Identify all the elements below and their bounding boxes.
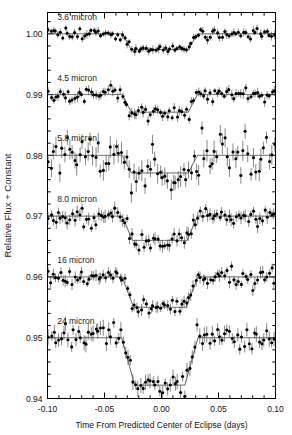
data-point	[71, 212, 74, 215]
data-point	[55, 221, 58, 224]
data-point	[57, 338, 60, 341]
data-point	[164, 46, 167, 49]
data-point	[151, 304, 154, 307]
data-point	[255, 333, 258, 336]
data-point	[129, 359, 132, 362]
data-point	[137, 109, 140, 112]
data-point	[50, 213, 53, 216]
data-point	[237, 214, 240, 217]
data-point	[204, 36, 207, 39]
y-tick-label-2: 0.96	[26, 272, 43, 282]
data-point	[248, 342, 251, 345]
data-point	[265, 329, 268, 332]
data-point	[228, 166, 231, 169]
data-point	[57, 211, 60, 214]
data-point	[131, 232, 134, 235]
data-point	[208, 213, 211, 216]
data-point	[190, 232, 193, 235]
data-point	[144, 184, 147, 187]
data-point	[260, 342, 263, 345]
data-point	[213, 28, 216, 31]
data-point	[187, 233, 190, 236]
data-point	[147, 311, 150, 314]
data-point	[211, 162, 214, 165]
data-point	[137, 310, 140, 313]
data-point	[87, 150, 90, 153]
data-point	[145, 302, 148, 305]
data-point	[130, 48, 133, 51]
data-point	[253, 282, 256, 285]
data-point	[220, 92, 223, 95]
data-point	[102, 326, 105, 329]
data-point	[104, 215, 107, 218]
data-point	[237, 31, 240, 34]
data-point	[252, 156, 255, 159]
data-point	[74, 219, 77, 222]
data-point	[68, 218, 71, 221]
data-point	[188, 118, 191, 121]
data-point	[116, 211, 119, 214]
data-point	[123, 277, 126, 280]
data-point	[75, 163, 78, 166]
data-point	[240, 283, 243, 286]
data-point	[120, 151, 123, 154]
data-point	[262, 338, 265, 341]
data-point	[158, 45, 161, 48]
data-point	[99, 34, 102, 37]
plot-canvas: -0.10-0.050.000.050.100.940.950.960.970.…	[0, 0, 292, 435]
data-point	[72, 328, 75, 331]
data-point	[46, 217, 49, 220]
data-point	[124, 36, 127, 39]
data-point	[226, 155, 229, 158]
y-axis-title: Relative Flux + Constant	[2, 153, 13, 257]
data-point	[134, 113, 137, 116]
data-point	[121, 219, 124, 222]
data-point	[185, 108, 188, 111]
data-point	[137, 172, 140, 175]
data-point	[251, 289, 254, 292]
data-point	[223, 30, 226, 33]
data-point	[92, 216, 95, 219]
data-point	[99, 326, 102, 329]
data-point	[183, 241, 186, 244]
data-point	[107, 32, 110, 35]
data-point	[209, 36, 212, 39]
data-point	[196, 323, 199, 326]
data-point	[201, 342, 204, 345]
data-point	[126, 356, 129, 359]
data-point	[76, 210, 79, 213]
data-point	[158, 390, 161, 393]
data-point	[66, 338, 69, 341]
data-point	[270, 35, 273, 38]
data-point	[179, 391, 182, 394]
data-point	[166, 115, 169, 118]
data-point	[256, 91, 259, 94]
data-point	[244, 275, 247, 278]
data-point	[265, 275, 268, 278]
data-point	[271, 266, 274, 269]
data-point	[128, 40, 131, 43]
data-point	[130, 191, 133, 194]
data-point	[113, 207, 116, 210]
data-point	[123, 221, 126, 224]
data-point	[152, 110, 155, 113]
data-point	[152, 380, 155, 383]
data-point	[145, 47, 148, 50]
data-point	[84, 155, 87, 158]
data-point	[173, 232, 176, 235]
data-point	[166, 179, 169, 182]
data-point	[52, 273, 55, 276]
data-point	[178, 310, 181, 313]
data-point	[189, 42, 192, 45]
data-point	[159, 111, 162, 114]
data-point	[128, 237, 131, 240]
data-point	[140, 233, 143, 236]
data-point	[121, 33, 124, 36]
data-point	[148, 379, 151, 382]
data-point	[173, 310, 176, 313]
data-point	[50, 167, 53, 170]
data-point	[62, 93, 65, 96]
data-point	[199, 92, 202, 95]
data-point	[219, 133, 222, 136]
data-point	[190, 171, 193, 174]
